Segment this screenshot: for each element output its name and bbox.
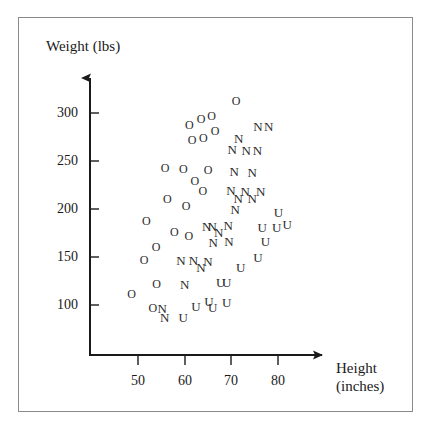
data-point-o: O [149,302,158,314]
data-point-n: N [229,164,238,177]
data-point-n: N [264,120,273,133]
data-point-u: U [272,221,281,234]
data-point-o: O [232,95,241,107]
data-point-n: N [248,165,257,178]
data-point-o: O [199,132,208,144]
data-point-o: O [161,162,170,174]
data-point-n: N [208,235,217,248]
data-point-o: O [207,110,216,122]
data-point-o: O [211,125,220,137]
data-point-u: U [191,300,200,313]
data-point-n: N [256,184,265,197]
data-point-o: O [185,230,194,242]
data-point-o: O [163,193,172,205]
data-point-u: U [179,310,188,323]
data-point-n: N [196,260,205,273]
data-point-n: N [224,234,233,247]
data-point-u: U [222,296,231,309]
data-point-o: O [179,163,188,175]
data-point-u: U [283,218,292,231]
data-point-n: N [228,142,237,155]
data-point-u: U [236,260,245,273]
data-point-o: O [185,119,194,131]
data-point-o: O [152,241,161,253]
data-point-n: N [248,192,257,205]
data-point-o: O [170,226,179,238]
data-point-o: O [188,134,197,146]
data-point-o: O [199,185,208,197]
data-point-u: U [222,276,231,289]
data-point-o: O [197,113,206,125]
data-point-u: U [257,221,266,234]
data-point-n: N [176,253,185,266]
data-point-n: N [253,120,262,133]
data-point-o: O [152,278,161,290]
data-point-o: O [204,164,213,176]
data-point-o: O [140,254,149,266]
data-point-o: O [127,288,136,300]
scatter-plot-figure: Weight (lbs) Height (inches) 300 250 200… [0,0,432,430]
data-point-o: O [182,200,191,212]
data-point-n: N [223,219,232,232]
data-point-n: N [180,277,189,290]
data-point-n: N [160,310,169,323]
data-point-u: U [208,300,217,313]
data-point-o: O [142,215,151,227]
data-point-n: N [253,143,262,156]
data-point-u: U [261,234,270,247]
data-point-u: U [253,251,262,264]
data-point-n: N [242,143,251,156]
data-point-n: N [230,203,239,216]
data-point-layer: OOOOOOOOOOOOOOOOOOOOOONNNNNNNNNNNNNNNNNN… [0,0,432,430]
